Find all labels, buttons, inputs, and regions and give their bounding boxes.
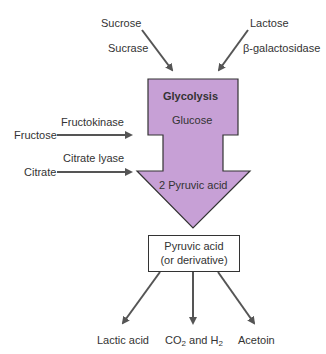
pyruvic-acid-line2: (or derivative) [149,253,239,267]
acetoin-label: Acetoin [238,334,275,347]
lactic-acid-label: Lactic acid [97,334,149,347]
pyruvic-acid-line1: Pyruvic acid [149,239,239,253]
lactose-label: Lactose [250,17,289,30]
fructokinase-label: Fructokinase [61,116,124,129]
lactic-acid-arrow [123,272,160,323]
glycolysis-title: Glycolysis [163,90,218,103]
and-h-text: and H [186,334,218,346]
pyruvic-acid-box: Pyruvic acid (or derivative) [148,235,240,272]
sucrose-label: Sucrose [101,17,141,30]
glucose-label: Glucose [172,114,212,127]
beta-galactosidase-label: β-galactosidase [243,42,320,55]
citrate-lyase-label: Citrate lyase [63,152,124,165]
pyruvic-acid-2-label: 2 Pyruvic acid [159,179,227,192]
h2-subscript: 2 [218,339,222,348]
fructose-label: Fructose [14,129,57,142]
acetoin-arrow [218,272,254,323]
co-text: CO [165,334,182,346]
sucrase-label: Sucrase [108,42,148,55]
co2-h2-label: CO2 and H2 [165,334,223,347]
citrate-label: Citrate [24,166,56,179]
